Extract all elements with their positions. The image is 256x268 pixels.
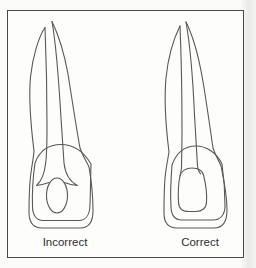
correct-tooth-drawing (164, 22, 227, 228)
incorrect-label: Incorrect (20, 236, 110, 249)
incorrect-root-canal-left-line (37, 28, 50, 186)
correct-root-canal-right-line (186, 22, 201, 174)
incorrect-tooth-drawing (29, 22, 93, 229)
tooth-diagram-canvas (0, 0, 256, 268)
correct-root-canal-left-line (180, 26, 182, 176)
incorrect-access-cavity-oval (47, 178, 68, 213)
correct-access-cavity-outline (178, 168, 206, 212)
incorrect-root-canal-right-line (52, 22, 78, 186)
page-background: Incorrect Correct (0, 0, 256, 268)
correct-label: Correct (155, 236, 245, 249)
incorrect-cervical-crown-outline (32, 145, 91, 221)
